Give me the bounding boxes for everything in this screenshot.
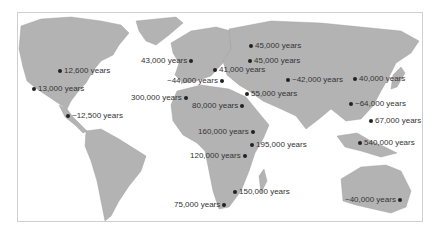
marker-dot-icon [184, 96, 188, 100]
marker-dot-icon [353, 77, 357, 81]
marker-dot-icon [243, 154, 247, 158]
marker-dot-icon [358, 141, 362, 145]
site-marker: 41,000 years [211, 65, 265, 74]
marker-dot-icon [286, 78, 290, 82]
site-marker: 160,000 years [198, 127, 257, 136]
marker-dot-icon [189, 59, 193, 63]
site-marker: ~42,000 years [284, 75, 343, 84]
site-marker: 195,000 years [248, 140, 307, 149]
site-marker: ~64,000 years [347, 99, 406, 108]
site-marker: 120,000 years [190, 151, 249, 160]
marker-dot-icon [248, 59, 252, 63]
marker-dot-icon [398, 198, 402, 202]
marker-dot-icon [233, 190, 237, 194]
marker-dot-icon [349, 102, 353, 106]
marker-dot-icon [251, 130, 255, 134]
marker-dot-icon [369, 119, 373, 123]
marker-dot-icon [249, 44, 253, 48]
site-marker: 80,000 years [192, 101, 246, 110]
site-marker: 67,000 years [367, 116, 421, 125]
marker-dot-icon [245, 92, 249, 96]
site-marker: 43,000 years [141, 56, 195, 65]
site-marker: 40,000 years [351, 74, 405, 83]
site-marker: 13,000 years [30, 84, 84, 93]
marker-dot-icon [240, 104, 244, 108]
site-marker: 150,000 years [231, 187, 290, 196]
site-marker: 540,000 years [356, 138, 415, 147]
site-marker: ~40,000 years [345, 195, 404, 204]
site-marker: 12,600 years [56, 66, 110, 75]
site-marker: ~44,000 years [167, 76, 226, 85]
marker-dot-icon [250, 143, 254, 147]
site-marker: 55,000 years [243, 89, 297, 98]
marker-dot-icon [66, 114, 70, 118]
site-marker: 45,000 years [247, 41, 301, 50]
marker-dot-icon [222, 203, 226, 207]
site-marker: 75,000 years [174, 200, 228, 209]
marker-dot-icon [58, 69, 62, 73]
site-marker: 45,000 years [246, 56, 300, 65]
marker-dot-icon [213, 68, 217, 72]
marker-dot-icon [220, 79, 224, 83]
site-marker: ~12,500 years [64, 111, 123, 120]
marker-dot-icon [32, 87, 36, 91]
site-marker: 300,000 years [131, 93, 190, 102]
